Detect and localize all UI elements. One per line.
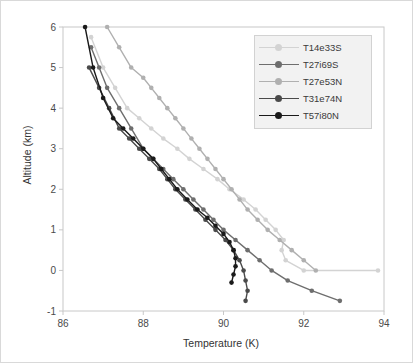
data-point bbox=[241, 268, 246, 273]
data-point bbox=[229, 187, 234, 192]
data-point bbox=[105, 86, 110, 91]
data-point bbox=[263, 217, 268, 222]
data-point bbox=[181, 187, 186, 192]
data-point bbox=[213, 167, 218, 172]
data-point bbox=[253, 207, 258, 212]
legend-swatch-icon bbox=[259, 42, 299, 54]
data-point bbox=[175, 146, 180, 151]
data-point bbox=[376, 268, 381, 273]
y-axis-title: Altitude (km) bbox=[21, 105, 33, 205]
data-point bbox=[279, 248, 284, 253]
data-point bbox=[241, 197, 246, 202]
data-point bbox=[231, 248, 236, 253]
data-point bbox=[159, 167, 164, 172]
data-point bbox=[161, 136, 166, 141]
data-point bbox=[157, 96, 162, 101]
data-point bbox=[245, 248, 250, 253]
data-point bbox=[105, 25, 110, 30]
data-point bbox=[125, 106, 130, 111]
legend-label: T57i80N bbox=[299, 110, 339, 121]
data-point bbox=[201, 167, 206, 172]
chart-legend: T14e33S T27i69S T27e53N T31e74N bbox=[254, 35, 372, 129]
data-point bbox=[117, 106, 122, 111]
data-point bbox=[129, 65, 134, 70]
data-series bbox=[83, 25, 238, 285]
data-point bbox=[129, 126, 134, 131]
y-tick-label: 5 bbox=[50, 62, 56, 73]
data-point bbox=[221, 232, 226, 237]
data-point bbox=[89, 35, 94, 40]
data-point bbox=[215, 177, 220, 182]
y-tick-label: -1 bbox=[47, 306, 56, 317]
y-tick-label: 2 bbox=[50, 184, 56, 195]
data-point bbox=[257, 258, 262, 263]
data-point bbox=[137, 116, 142, 121]
legend-label: T27i69S bbox=[299, 59, 338, 70]
data-point bbox=[113, 86, 118, 91]
data-point bbox=[313, 268, 318, 273]
legend-item: T27e53N bbox=[259, 73, 367, 90]
data-point bbox=[195, 207, 200, 212]
data-point bbox=[301, 268, 306, 273]
chart-container: 8688909294-10123456 Altitude (km) Temper… bbox=[0, 0, 413, 363]
data-point bbox=[175, 187, 180, 192]
data-point bbox=[97, 65, 102, 70]
data-point bbox=[101, 96, 106, 101]
y-tick-label: 3 bbox=[50, 143, 56, 154]
x-tick-label: 94 bbox=[378, 318, 390, 329]
data-point bbox=[131, 136, 136, 141]
data-point bbox=[141, 75, 146, 80]
data-point bbox=[255, 217, 260, 222]
data-point bbox=[141, 146, 146, 151]
legend-item: T14e33S bbox=[259, 39, 367, 56]
x-tick-label: 92 bbox=[298, 318, 310, 329]
legend-label: T14e33S bbox=[299, 42, 342, 53]
x-tick-label: 90 bbox=[218, 318, 230, 329]
data-point bbox=[301, 258, 306, 263]
data-point bbox=[269, 268, 274, 273]
data-point bbox=[229, 280, 234, 285]
data-point bbox=[233, 256, 238, 261]
x-tick-label: 88 bbox=[138, 318, 150, 329]
data-point bbox=[181, 126, 186, 131]
data-point bbox=[245, 207, 250, 212]
data-point bbox=[273, 228, 278, 233]
legend-item: T27i69S bbox=[259, 56, 367, 73]
data-point bbox=[227, 240, 232, 245]
data-point bbox=[221, 177, 226, 182]
legend-swatch-icon bbox=[259, 110, 299, 122]
data-point bbox=[233, 264, 238, 269]
legend-swatch-icon bbox=[259, 59, 299, 71]
data-point bbox=[171, 177, 176, 182]
data-point bbox=[277, 238, 282, 243]
legend-swatch-icon bbox=[259, 93, 299, 105]
data-point bbox=[237, 258, 242, 263]
data-point bbox=[237, 197, 242, 202]
data-point bbox=[87, 65, 92, 70]
x-tick-label: 86 bbox=[57, 318, 69, 329]
data-point bbox=[91, 65, 96, 70]
data-point bbox=[149, 86, 154, 91]
data-point bbox=[101, 65, 106, 70]
data-point bbox=[117, 45, 122, 50]
data-point bbox=[283, 258, 288, 263]
data-point bbox=[205, 157, 210, 162]
data-point bbox=[289, 248, 294, 253]
x-axis-title: Temperature (K) bbox=[61, 337, 381, 349]
data-point bbox=[187, 157, 192, 162]
y-tick-label: 1 bbox=[50, 224, 56, 235]
data-point bbox=[111, 116, 116, 121]
data-point bbox=[233, 238, 238, 243]
legend-item: T31e74N bbox=[259, 90, 367, 107]
data-point bbox=[231, 272, 236, 277]
data-point bbox=[121, 126, 126, 131]
data-point bbox=[285, 278, 290, 283]
data-point bbox=[191, 197, 196, 202]
data-point bbox=[243, 299, 248, 304]
data-point bbox=[265, 228, 270, 233]
legend-label: T27e53N bbox=[299, 76, 342, 87]
legend-swatch-icon bbox=[259, 76, 299, 88]
data-point bbox=[149, 126, 154, 131]
data-point bbox=[197, 146, 202, 151]
data-point bbox=[83, 25, 88, 30]
